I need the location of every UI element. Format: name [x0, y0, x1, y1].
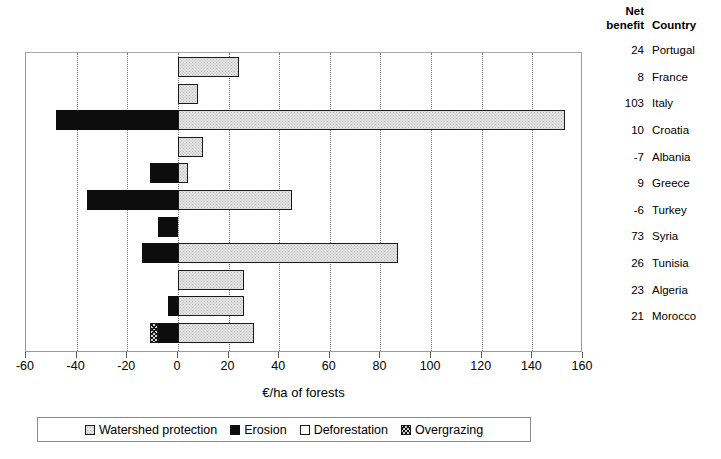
- x-tick-140: [531, 352, 532, 358]
- x-tick-label--20: -20: [117, 359, 135, 373]
- table-cell-country: Turkey: [648, 204, 714, 216]
- table-cell-net-benefit: 10: [596, 124, 648, 136]
- table-cell-country: Morocco: [648, 310, 714, 322]
- bar-row: [26, 107, 581, 134]
- x-tick-label--40: -40: [67, 359, 85, 373]
- bar-segment-erosion: [142, 243, 177, 263]
- table-row: 8France: [596, 64, 718, 91]
- table-cell-country: Algeria: [648, 284, 714, 296]
- table-cell-net-benefit: 21: [596, 310, 648, 322]
- legend-label: Erosion: [244, 423, 286, 437]
- bar-segment-watershed: [178, 84, 198, 104]
- x-axis-tick-labels: -60-40-20020406080100120140160: [0, 359, 721, 377]
- table-header-row-1: Net: [596, 4, 718, 18]
- bar-row: [26, 267, 581, 294]
- x-tick--40: [76, 352, 77, 358]
- legend-label: Overgrazing: [415, 423, 483, 437]
- x-tick-label-40: 40: [271, 359, 285, 373]
- x-tick-label--60: -60: [16, 359, 34, 373]
- table-header-net-line2: benefit: [596, 18, 648, 32]
- legend-swatch-deforestation-icon: [300, 425, 310, 435]
- x-tick-label-0: 0: [173, 359, 180, 373]
- x-tick-80: [379, 352, 380, 358]
- bar-row: [26, 187, 581, 214]
- bar-segment-erosion: [158, 323, 178, 343]
- bar-segment-erosion: [87, 190, 178, 210]
- bar-segment-erosion: [168, 296, 178, 316]
- x-axis-title: €/ha of forests: [25, 385, 582, 400]
- x-tick--60: [25, 352, 26, 358]
- table-row: 103Italy: [596, 90, 718, 117]
- table-cell-country: Portugal: [648, 44, 714, 56]
- table-cell-net-benefit: 73: [596, 230, 648, 242]
- x-tick-60: [329, 352, 330, 358]
- legend-label: Watershed protection: [99, 423, 217, 437]
- table-cell-net-benefit: 24: [596, 44, 648, 56]
- bar-segment-watershed: [178, 163, 188, 183]
- table-row: 26Tunisia: [596, 250, 718, 277]
- bar-segment-watershed: [178, 323, 254, 343]
- bar-segment-watershed: [178, 190, 292, 210]
- bar-segment-watershed: [178, 57, 239, 77]
- x-tick-0: [177, 352, 178, 358]
- legend-swatch-overgrazing-icon: [401, 425, 411, 435]
- table-header-row-2: benefit Country: [596, 18, 718, 32]
- table-cell-country: Croatia: [648, 124, 714, 136]
- legend-item-deforestation: Deforestation: [300, 423, 388, 437]
- x-tick-label-140: 140: [521, 359, 542, 373]
- bar-row: [26, 214, 581, 241]
- legend-swatch-watershed-icon: [85, 425, 95, 435]
- bar-segment-erosion: [158, 217, 178, 237]
- bar-row: [26, 160, 581, 187]
- table-cell-net-benefit: 103: [596, 97, 648, 109]
- bar-segment-watershed: [178, 243, 398, 263]
- table-row: -6Turkey: [596, 197, 718, 224]
- bar-segment-watershed: [178, 296, 244, 316]
- x-tick-label-80: 80: [373, 359, 387, 373]
- x-tick-120: [481, 352, 482, 358]
- x-tick-40: [278, 352, 279, 358]
- bar-row: [26, 134, 581, 161]
- table-row: 73Syria: [596, 223, 718, 250]
- bar-segment-erosion: [56, 110, 178, 130]
- x-tick-160: [582, 352, 583, 358]
- table-cell-net-benefit: -7: [596, 151, 648, 163]
- table-row: -7Albania: [596, 143, 718, 170]
- table-cell-country: Tunisia: [648, 257, 714, 269]
- net-benefit-table: Net benefit Country 24Portugal8France103…: [596, 4, 718, 330]
- table-cell-country: Albania: [648, 151, 714, 163]
- bar-row: [26, 320, 581, 347]
- legend-item-overgrazing: Overgrazing: [401, 423, 483, 437]
- legend-label: Deforestation: [314, 423, 388, 437]
- legend-item-erosion: Erosion: [230, 423, 286, 437]
- legend-swatch-erosion-icon: [230, 425, 240, 435]
- table-row: 21Morocco: [596, 303, 718, 330]
- table-cell-country: Syria: [648, 230, 714, 242]
- bar-row: [26, 81, 581, 108]
- table-cell-country: Greece: [648, 177, 714, 189]
- table-cell-net-benefit: 23: [596, 284, 648, 296]
- chart-plot-area: [25, 52, 582, 352]
- bar-segment-watershed: [178, 270, 244, 290]
- table-cell-net-benefit: 8: [596, 71, 648, 83]
- bar-row: [26, 240, 581, 267]
- table-header-net-line1: Net: [596, 4, 648, 18]
- table-header-spacer: [648, 4, 714, 18]
- x-tick-label-60: 60: [322, 359, 336, 373]
- bars-layer: [26, 53, 581, 351]
- legend-item-watershed: Watershed protection: [85, 423, 217, 437]
- x-tick-label-20: 20: [221, 359, 235, 373]
- x-tick-20: [228, 352, 229, 358]
- chart-legend: Watershed protectionErosionDeforestation…: [37, 417, 531, 442]
- table-row: 10Croatia: [596, 117, 718, 144]
- bar-row: [26, 293, 581, 320]
- bar-row: [26, 54, 581, 81]
- x-tick-label-160: 160: [572, 359, 593, 373]
- bar-segment-watershed: [178, 110, 565, 130]
- bar-segment-erosion: [150, 163, 178, 183]
- x-tick-100: [430, 352, 431, 358]
- bar-segment-overgrazing: [150, 323, 158, 343]
- bar-segment-watershed: [178, 137, 203, 157]
- table-cell-net-benefit: 9: [596, 177, 648, 189]
- table-cell-country: Italy: [648, 97, 714, 109]
